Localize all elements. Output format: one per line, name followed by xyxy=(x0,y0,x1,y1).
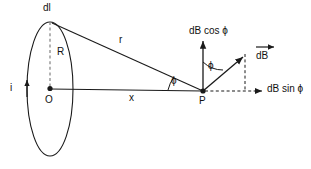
label-P: P xyxy=(199,96,206,106)
radius-vector-line xyxy=(52,23,203,91)
label-i: i xyxy=(10,83,12,93)
point-O-dot xyxy=(47,86,52,91)
label-phi-vertical: ϕ xyxy=(208,61,214,71)
label-dB-sin-phi: dB sin ϕ xyxy=(267,84,303,94)
diagram-canvas: dl R O i r x P ϕ ϕ dB cos ϕ dB sin ϕ dB xyxy=(0,0,311,169)
diagram-svg xyxy=(0,0,311,169)
label-R: R xyxy=(57,47,64,57)
label-dB-cos-phi: dB cos ϕ xyxy=(189,26,228,36)
label-r: r xyxy=(119,35,122,45)
label-dB-vector: dB xyxy=(256,51,268,61)
label-dl: dl xyxy=(43,3,51,13)
label-x: x xyxy=(129,93,134,103)
label-O: O xyxy=(45,95,53,105)
label-phi-axis: ϕ xyxy=(171,76,177,86)
